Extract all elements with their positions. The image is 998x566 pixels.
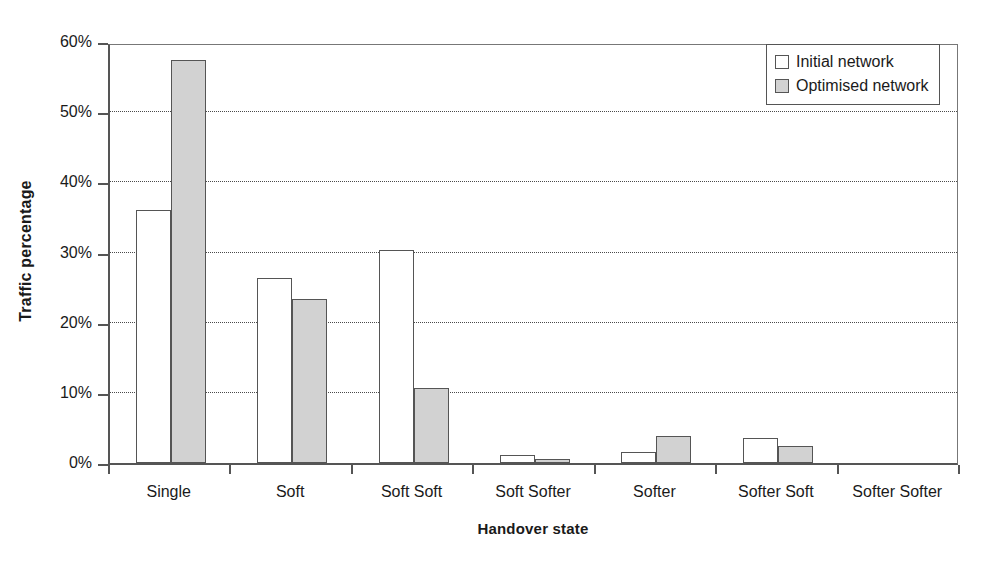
bar [778, 446, 813, 463]
x-axis-tick-mark [108, 465, 110, 474]
y-axis-tick-label: 40% [60, 173, 92, 191]
legend-item: Optimised network [775, 74, 929, 98]
x-axis-title: Handover state [108, 520, 958, 537]
legend-item-label: Optimised network [796, 78, 929, 94]
bar [292, 299, 327, 463]
bar [171, 60, 206, 463]
x-axis-category-label: Soft Soft [381, 483, 442, 501]
x-axis-tick-mark [229, 465, 231, 474]
y-axis-tick-label: 10% [60, 384, 92, 402]
x-axis-tick-mark [715, 465, 717, 474]
x-axis-category-label: Softer [633, 483, 676, 501]
bar [136, 210, 171, 463]
x-axis-category-label: Soft [276, 483, 304, 501]
y-axis-tick-mark [98, 464, 108, 466]
legend-swatch-icon [775, 55, 789, 69]
bar [656, 436, 691, 463]
y-axis-tick-label: 50% [60, 103, 92, 121]
y-axis-tick-label: 20% [60, 314, 92, 332]
x-axis-category-label: Soft Softer [495, 483, 571, 501]
plot-area [108, 44, 958, 465]
y-axis-tick-label: 0% [69, 454, 92, 472]
bar [621, 452, 656, 463]
y-axis-tick-mark [98, 113, 108, 115]
y-axis-tick-mark [98, 43, 108, 45]
x-axis-category-label: Softer Soft [738, 483, 814, 501]
x-axis-ticks: SingleSoftSoft SoftSoft SofterSofterSoft… [108, 465, 958, 520]
x-axis-tick-mark [351, 465, 353, 474]
chart-legend: Initial networkOptimised network [766, 44, 940, 105]
y-axis-tick-mark [98, 183, 108, 185]
bar [379, 250, 414, 463]
legend-item: Initial network [775, 50, 929, 74]
bar [535, 459, 570, 463]
y-axis-tick-mark [98, 254, 108, 256]
bar-chart: Traffic percentage 0%10%20%30%40%50%60% … [0, 0, 998, 566]
x-axis-category-label: Single [146, 483, 190, 501]
x-axis-tick-mark [472, 465, 474, 474]
x-axis-tick-mark [594, 465, 596, 474]
y-axis-tick-mark [98, 394, 108, 396]
legend-swatch-icon [775, 79, 789, 93]
x-axis-category-label: Softer Softer [852, 483, 942, 501]
bar [500, 455, 535, 463]
y-axis-tick-label: 30% [60, 244, 92, 262]
bar [257, 278, 292, 463]
y-axis-ticks: 0%10%20%30%40%50%60% [0, 44, 108, 465]
bar [743, 438, 778, 463]
y-axis-tick-label: 60% [60, 33, 92, 51]
bars-layer [110, 45, 957, 463]
legend-item-label: Initial network [796, 54, 894, 70]
bar [414, 388, 449, 463]
x-axis-tick-mark [958, 465, 960, 474]
x-axis-tick-mark [837, 465, 839, 474]
y-axis-tick-mark [98, 324, 108, 326]
